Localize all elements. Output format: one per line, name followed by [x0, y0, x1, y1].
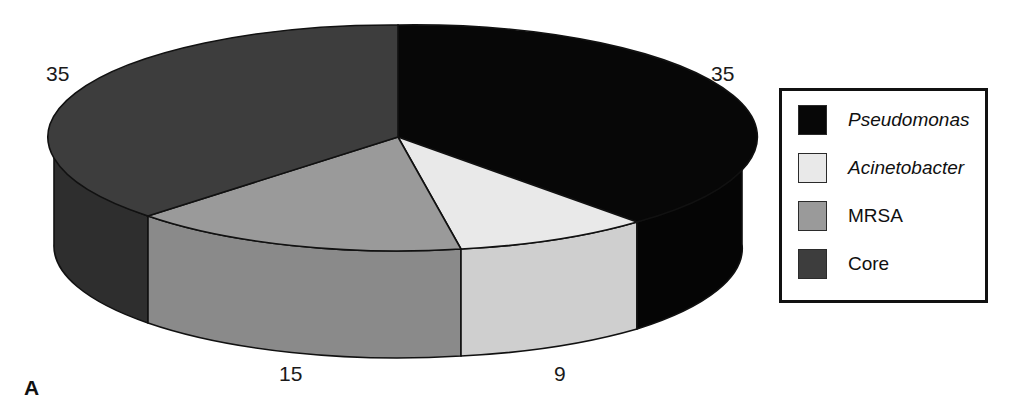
legend-swatch-pseudomonas	[798, 105, 827, 135]
legend-item-core[interactable]: Core	[798, 249, 889, 279]
legend-item-mrsa[interactable]: MRSA	[798, 201, 903, 231]
legend-swatch-mrsa	[798, 201, 827, 231]
panel-label: A	[24, 376, 39, 400]
legend-item-acinetobacter[interactable]: Acinetobacter	[798, 153, 964, 183]
value-label-pseudomonas: 35	[711, 62, 734, 86]
legend-swatch-acinetobacter	[798, 153, 827, 183]
figure-panel: 35 35 15 9 A Pseudomonas Acinetobacter M…	[0, 0, 1035, 418]
legend-swatch-core	[798, 249, 827, 279]
legend: Pseudomonas Acinetobacter MRSA Core	[779, 88, 988, 303]
legend-label-mrsa: MRSA	[848, 205, 903, 227]
legend-label-acinetobacter: Acinetobacter	[848, 157, 964, 179]
value-label-acinetobacter: 9	[554, 362, 566, 386]
legend-label-pseudomonas: Pseudomonas	[848, 109, 969, 131]
legend-label-core: Core	[848, 253, 889, 275]
value-label-core: 35	[46, 62, 69, 86]
value-label-mrsa: 15	[279, 362, 302, 386]
pie-top-face	[48, 25, 758, 251]
legend-item-pseudomonas[interactable]: Pseudomonas	[798, 105, 969, 135]
